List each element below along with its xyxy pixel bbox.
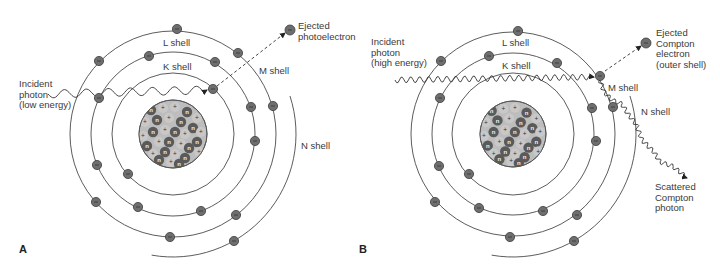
svg-text:n: n bbox=[507, 139, 511, 145]
electron bbox=[233, 48, 242, 57]
electron bbox=[144, 51, 153, 60]
ejected-electron bbox=[641, 38, 651, 48]
svg-text:+: + bbox=[538, 128, 542, 135]
svg-text:n: n bbox=[534, 139, 538, 145]
svg-text:+: + bbox=[507, 115, 511, 122]
svg-text:n: n bbox=[155, 117, 159, 123]
svg-text:n: n bbox=[145, 143, 149, 149]
svg-text:+: + bbox=[513, 104, 517, 111]
compton-photoelectric-figure: K shellL shellM shellN shelln++n++n+nn++… bbox=[0, 0, 720, 269]
electron bbox=[133, 202, 142, 211]
svg-text:n: n bbox=[183, 155, 187, 161]
shell-k-label: K shell bbox=[502, 60, 531, 71]
svg-text:n: n bbox=[177, 161, 181, 167]
svg-text:n: n bbox=[517, 160, 521, 166]
electron bbox=[591, 136, 600, 145]
svg-text:+: + bbox=[167, 114, 171, 121]
electron bbox=[595, 71, 604, 80]
electron bbox=[231, 210, 240, 219]
svg-text:+: + bbox=[163, 126, 167, 133]
electron bbox=[572, 210, 581, 219]
electron bbox=[210, 57, 219, 66]
svg-text:+: + bbox=[534, 115, 538, 122]
svg-text:+: + bbox=[179, 140, 183, 147]
svg-text:+: + bbox=[173, 103, 177, 110]
svg-text:n: n bbox=[527, 145, 531, 151]
svg-text:n: n bbox=[486, 143, 490, 149]
ejected-electron-label: EjectedComptonelectron(outer shell) bbox=[656, 27, 706, 70]
svg-text:+: + bbox=[183, 130, 187, 137]
electron bbox=[538, 206, 547, 215]
svg-text:n: n bbox=[492, 129, 496, 135]
shell-m-label: M shell bbox=[259, 65, 289, 76]
electron bbox=[435, 93, 444, 102]
svg-text:+: + bbox=[501, 105, 505, 112]
svg-text:+: + bbox=[161, 104, 165, 111]
electron bbox=[208, 84, 217, 93]
svg-text:+: + bbox=[199, 128, 203, 135]
svg-text:n: n bbox=[195, 139, 199, 145]
electron bbox=[92, 160, 101, 169]
electron bbox=[165, 232, 174, 241]
shell-l-label: L shell bbox=[163, 37, 190, 48]
svg-text:+: + bbox=[498, 138, 502, 145]
electron bbox=[91, 197, 100, 206]
nucleus: n++n++n+nn++n+n+nn+n+n++n+nn+n bbox=[479, 101, 546, 168]
nucleus: n++n++n+nn++n+n+nn+n+n++n+nn+n bbox=[138, 100, 207, 169]
svg-text:n: n bbox=[191, 125, 195, 131]
svg-text:n: n bbox=[167, 139, 171, 145]
electron bbox=[430, 197, 439, 206]
electron bbox=[484, 51, 493, 60]
electron bbox=[552, 58, 561, 67]
svg-text:+: + bbox=[157, 138, 161, 145]
electron bbox=[505, 232, 514, 241]
electron bbox=[434, 161, 443, 170]
shell-m-label: M shell bbox=[608, 82, 638, 93]
svg-text:n: n bbox=[513, 129, 517, 135]
electron bbox=[94, 56, 103, 65]
panel-letter: A bbox=[19, 243, 27, 255]
ejection-path-arrow bbox=[217, 33, 285, 86]
shell-l-label: L shell bbox=[502, 37, 529, 48]
incident-photon-wave bbox=[48, 86, 207, 98]
svg-text:n: n bbox=[179, 119, 183, 125]
svg-text:n: n bbox=[498, 156, 502, 162]
svg-text:+: + bbox=[484, 119, 488, 126]
scattered-photon-wave bbox=[599, 80, 687, 178]
svg-text:n: n bbox=[173, 129, 177, 135]
svg-text:+: + bbox=[503, 126, 507, 133]
panel-letter: B bbox=[359, 243, 367, 255]
electron bbox=[250, 136, 259, 145]
electron bbox=[123, 169, 132, 178]
svg-text:n: n bbox=[503, 149, 507, 155]
svg-text:+: + bbox=[173, 150, 177, 157]
electron bbox=[569, 236, 578, 245]
svg-text:+: + bbox=[523, 130, 527, 137]
electron bbox=[196, 206, 205, 215]
ejection-path-arrow bbox=[605, 46, 641, 71]
svg-text:n: n bbox=[519, 120, 523, 126]
svg-text:n: n bbox=[157, 157, 161, 163]
svg-text:+: + bbox=[509, 157, 513, 164]
svg-text:n: n bbox=[187, 145, 191, 151]
svg-text:+: + bbox=[482, 132, 486, 139]
svg-text:n: n bbox=[523, 154, 527, 160]
svg-text:+: + bbox=[492, 150, 496, 157]
electron bbox=[268, 101, 277, 110]
electron bbox=[172, 24, 181, 33]
electron bbox=[94, 93, 103, 102]
svg-text:n: n bbox=[525, 110, 529, 116]
electron bbox=[436, 56, 445, 65]
electron bbox=[246, 102, 255, 111]
electron bbox=[587, 103, 596, 112]
incident-photon-label: Incidentphoton(low energy) bbox=[19, 78, 71, 110]
svg-text:+: + bbox=[169, 158, 173, 165]
scattered-photon-label: ScatteredComptonphoton bbox=[655, 181, 696, 213]
shell-n-label: N shell bbox=[301, 140, 330, 151]
svg-text:n: n bbox=[151, 129, 155, 135]
incident-photon-label: Incidentphoton(high energy) bbox=[371, 36, 427, 68]
svg-text:+: + bbox=[141, 132, 145, 139]
svg-text:+: + bbox=[151, 150, 155, 157]
svg-text:n: n bbox=[163, 149, 167, 155]
ejected-electron bbox=[285, 25, 295, 35]
